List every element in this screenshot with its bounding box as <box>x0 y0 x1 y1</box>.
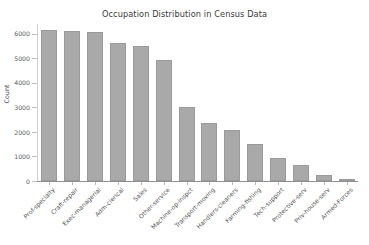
y-axis-tick <box>32 83 37 84</box>
y-axis-tick <box>32 34 37 35</box>
y-axis-tick <box>32 156 37 157</box>
bar[interactable] <box>224 130 240 181</box>
bar[interactable] <box>64 31 80 181</box>
bar[interactable] <box>201 123 217 181</box>
x-axis-spine <box>37 181 358 182</box>
x-axis-tick-label: Adm-clerical <box>0 186 125 245</box>
x-axis-tick <box>95 182 96 185</box>
plot-area <box>38 24 358 181</box>
x-axis-tick <box>49 182 50 185</box>
bar[interactable] <box>270 158 286 181</box>
y-axis-tick-label: 3000 <box>0 104 30 111</box>
x-axis-tick <box>324 182 325 185</box>
y-axis-tick <box>32 132 37 133</box>
bar[interactable] <box>339 179 355 181</box>
y-axis-tick-label: 1000 <box>0 153 30 160</box>
x-axis-tick <box>209 182 210 185</box>
x-axis-tick <box>255 182 256 185</box>
y-axis-tick-label: 2000 <box>0 129 30 136</box>
chart-title: Occupation Distribution in Census Data <box>0 9 369 19</box>
x-axis-tick <box>187 182 188 185</box>
y-axis-tick-label: 0 <box>0 178 30 185</box>
x-axis-tick <box>232 182 233 185</box>
y-axis-tick <box>32 107 37 108</box>
bar[interactable] <box>41 30 57 181</box>
x-axis-tick <box>118 182 119 185</box>
bar[interactable] <box>316 175 332 181</box>
y-axis-tick <box>32 58 37 59</box>
bar[interactable] <box>133 46 149 181</box>
x-axis-tick <box>72 182 73 185</box>
x-axis-tick <box>141 182 142 185</box>
y-axis-tick-label: 6000 <box>0 30 30 37</box>
bar[interactable] <box>87 32 103 181</box>
x-axis-tick <box>164 182 165 185</box>
x-axis-tick <box>278 182 279 185</box>
bar[interactable] <box>179 107 195 181</box>
y-axis-tick-label: 4000 <box>0 79 30 86</box>
y-axis-tick-label: 5000 <box>0 55 30 62</box>
bar[interactable] <box>293 165 309 181</box>
bar[interactable] <box>110 43 126 181</box>
chart-figure: Occupation Distribution in Census Data C… <box>0 0 369 245</box>
y-axis-tick <box>32 181 37 182</box>
y-axis-label: Count <box>3 64 11 124</box>
x-axis-tick <box>347 182 348 185</box>
bar[interactable] <box>156 60 172 181</box>
bar[interactable] <box>247 144 263 181</box>
x-axis-tick <box>301 182 302 185</box>
